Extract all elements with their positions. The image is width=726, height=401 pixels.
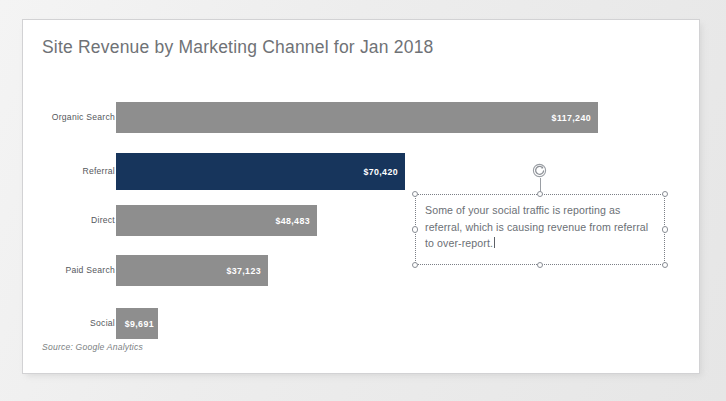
bar-paid-search[interactable]: $37,123 (116, 255, 268, 286)
bar-organic-search[interactable]: $117,240 (116, 102, 598, 133)
category-label-organic-search: Organic Search (0, 112, 115, 122)
rotate-icon[interactable] (532, 163, 547, 178)
bar-value-referral: $70,420 (363, 167, 398, 177)
text-cursor (494, 237, 495, 248)
screenshot-root: Site Revenue by Marketing Channel for Ja… (0, 0, 726, 401)
category-label-paid-search: Paid Search (0, 265, 115, 275)
bar-direct[interactable]: $48,483 (116, 205, 317, 236)
source-note: Source: Google Analytics (42, 342, 143, 352)
annotation-text-content: Some of your social traffic is reporting… (425, 204, 648, 249)
bar-value-paid-search: $37,123 (226, 266, 261, 276)
bar-row[interactable]: Social $9,691 (23, 308, 701, 339)
bar-social[interactable]: $9,691 (116, 308, 158, 339)
bar-value-organic-search: $117,240 (552, 113, 591, 123)
annotation-textbox-selection[interactable]: Some of your social traffic is reporting… (415, 194, 665, 265)
resize-handle-middle-right[interactable] (662, 226, 669, 233)
category-label-social: Social (0, 318, 115, 328)
resize-handle-middle-left[interactable] (412, 226, 419, 233)
bar-value-direct: $48,483 (275, 216, 310, 226)
annotation-textbox-text[interactable]: Some of your social traffic is reporting… (425, 202, 657, 252)
category-label-referral: Referral (0, 166, 115, 176)
chart-title: Site Revenue by Marketing Channel for Ja… (42, 37, 434, 58)
bar-row[interactable]: Referral $70,420 (23, 153, 701, 190)
bar-value-social: $9,691 (125, 319, 154, 329)
slide-canvas[interactable]: Site Revenue by Marketing Channel for Ja… (22, 19, 700, 374)
annotation-textbox[interactable]: Some of your social traffic is reporting… (415, 194, 665, 265)
bar-row[interactable]: Organic Search $117,240 (23, 102, 701, 133)
bar-referral[interactable]: $70,420 (116, 153, 405, 190)
category-label-direct: Direct (0, 215, 115, 225)
